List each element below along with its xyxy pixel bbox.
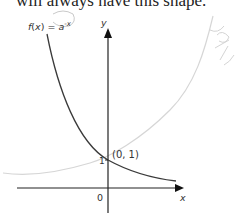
point-label: (0, 1) (112, 149, 139, 160)
exponential-graph: f(x) = a-x y x 0 1 (0, 1) (0, 0, 245, 222)
y-axis-label: y (100, 17, 107, 28)
origin-label: 0 (97, 192, 103, 203)
pencil-annotation (210, 26, 234, 65)
x-axis-arrow-icon (175, 184, 184, 192)
x-axis-label: x (179, 192, 186, 203)
function-label: f(x) = a-x (28, 20, 72, 32)
y-tick-label: 1 (99, 156, 105, 166)
y-axis-arrow-icon (104, 28, 112, 38)
